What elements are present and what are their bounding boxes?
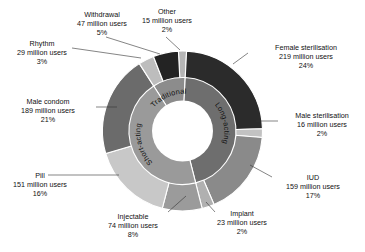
callout-injectable-value: 74 million users — [108, 221, 158, 230]
callout-male-sterilisation-value: 16 million users — [297, 120, 347, 129]
callout-male-condom: Male condom 189 million users 21% — [21, 97, 75, 124]
callout-pill-name: Pill — [35, 171, 45, 180]
callout-withdrawal-value: 47 million users — [77, 19, 127, 28]
callout-other-percent: 2% — [162, 25, 173, 34]
leader-line-iud — [250, 165, 272, 177]
chart-svg: Traditional Long-acting Short-acting Wit… — [0, 0, 365, 252]
callout-implant-value: 23 million users — [217, 218, 267, 227]
leader-line-withdrawal — [106, 37, 160, 54]
callout-male-condom-name: Male condom — [26, 97, 69, 106]
donut-chart: Traditional Long-acting Short-acting Wit… — [0, 0, 365, 252]
callout-male-sterilisation: Male sterilisation 16 million users 2% — [295, 111, 349, 138]
callout-other: Other 15 million users 2% — [142, 7, 192, 34]
callout-iud-name: IUD — [307, 173, 319, 182]
callout-injectable-name: Injectable — [118, 212, 149, 221]
callout-female-sterilisation: Female sterilisation 219 million users 2… — [275, 43, 337, 70]
donut-hole — [152, 101, 213, 162]
callout-rhythm-value: 29 million users — [17, 48, 67, 57]
callout-iud: IUD 159 million users 17% — [286, 173, 340, 200]
callout-withdrawal-name: Withdrawal — [84, 10, 120, 19]
callout-rhythm-percent: 3% — [37, 57, 48, 66]
callout-implant: Implant 23 million users 2% — [217, 209, 267, 236]
callout-male-condom-value: 189 million users — [21, 106, 75, 115]
callout-female-sterilisation-name: Female sterilisation — [275, 43, 337, 52]
callout-rhythm: Rhythm 29 million users 3% — [17, 39, 67, 66]
callout-iud-percent: 17% — [306, 191, 321, 200]
callout-withdrawal-percent: 5% — [97, 28, 108, 37]
callout-pill-percent: 16% — [33, 189, 48, 198]
leader-line-rhythm — [72, 48, 141, 58]
callout-male-sterilisation-percent: 2% — [317, 129, 328, 138]
callout-female-sterilisation-value: 219 million users — [279, 52, 333, 61]
callout-withdrawal: Withdrawal 47 million users 5% — [77, 10, 127, 37]
callout-male-sterilisation-name: Male sterilisation — [295, 111, 349, 120]
callout-rhythm-name: Rhythm — [30, 39, 55, 48]
callout-implant-percent: 2% — [237, 227, 248, 236]
callout-pill-value: 151 million users — [13, 180, 67, 189]
leader-line-female-sterilisation — [233, 53, 248, 64]
leader-line-other — [166, 37, 180, 50]
callout-female-sterilisation-percent: 24% — [299, 61, 314, 70]
callout-other-name: Other — [158, 7, 177, 16]
callout-iud-value: 159 million users — [286, 182, 340, 191]
callout-injectable-percent: 8% — [128, 230, 139, 239]
callout-injectable: Injectable 74 million users 8% — [108, 212, 158, 239]
callout-other-value: 15 million users — [142, 16, 192, 25]
callout-implant-name: Implant — [230, 209, 254, 218]
callout-male-condom-percent: 21% — [41, 115, 56, 124]
